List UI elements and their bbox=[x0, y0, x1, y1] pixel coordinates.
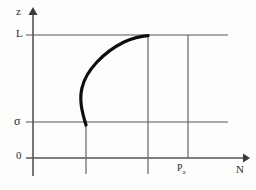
y-tick-label-zero: 0 bbox=[16, 150, 22, 161]
profile-curve bbox=[81, 36, 148, 125]
y-tick-label-L: L bbox=[16, 28, 23, 39]
y-tick-label-sigma: σ bbox=[14, 115, 20, 127]
axis-y-arrowhead bbox=[29, 7, 38, 15]
plot-figure bbox=[0, 0, 256, 190]
x-tick-label-pa: Pa bbox=[177, 163, 186, 176]
axis-y-label: z bbox=[16, 6, 21, 17]
axis-x-label: N bbox=[236, 164, 244, 175]
x-tick-label-pa-subscript: a bbox=[183, 168, 186, 176]
axis-x-arrowhead bbox=[243, 154, 250, 163]
